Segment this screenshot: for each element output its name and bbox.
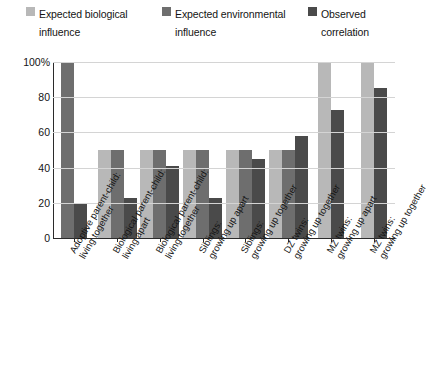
y-tick-label: 80 — [8, 91, 50, 103]
gridline — [53, 97, 395, 98]
legend-label-line2: correlation — [321, 26, 369, 38]
legend-item-label: Observed correlation — [321, 4, 398, 40]
bar — [61, 62, 74, 238]
legend-label-line1: Expected environmental — [175, 8, 285, 20]
y-tick-label: 100% — [8, 56, 50, 68]
legend-item-expected-biological-influence: Expected biological influence — [26, 4, 162, 40]
legend-label-line2: influence — [175, 26, 216, 38]
legend-item-label: Expected biological influence — [39, 4, 162, 40]
y-axis-ticks: 100%806040200 — [0, 48, 50, 248]
page-corner-mark — [2, 26, 10, 36]
bar — [374, 88, 387, 238]
gridline — [53, 62, 395, 63]
legend-swatch-icon — [26, 7, 35, 16]
chart-legend: Expected biological influence Expected e… — [26, 4, 398, 44]
legend-item-label: Expected environmental influence — [175, 4, 308, 40]
legend-label-line1: Observed — [321, 8, 366, 20]
y-tick-label: 60 — [8, 126, 50, 138]
legend-label-line2: influence — [39, 26, 80, 38]
y-tick-label: 0 — [8, 232, 50, 244]
legend-swatch-icon — [308, 7, 317, 16]
legend-swatch-icon — [162, 7, 171, 16]
legend-item-observed-correlation: Observed correlation — [308, 4, 398, 40]
x-axis-labels: Adoptive parent-child:living togetherBio… — [0, 248, 402, 378]
legend-item-expected-environmental-influence: Expected environmental influence — [162, 4, 308, 40]
gridline — [53, 168, 395, 169]
legend-label-line1: Expected biological — [39, 8, 128, 20]
y-tick-label: 40 — [8, 162, 50, 174]
gridline — [53, 132, 395, 133]
y-tick-label: 20 — [8, 197, 50, 209]
